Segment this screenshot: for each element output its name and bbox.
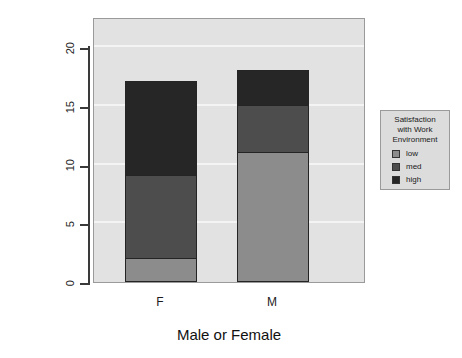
legend: Satisfactionwith WorkEnvironment lowmedh… <box>380 110 450 190</box>
legend-item-high[interactable]: high <box>392 174 446 186</box>
legend-item-med[interactable]: med <box>392 161 446 173</box>
legend-label-low: low <box>406 149 418 159</box>
legend-items: lowmedhigh <box>384 148 446 186</box>
x-axis-title: Male or Female <box>93 326 365 343</box>
legend-label-med: med <box>406 162 422 172</box>
legend-label-high: high <box>406 175 421 185</box>
y-axis-tick <box>80 283 88 285</box>
bar-segment-f-low[interactable] <box>125 258 197 283</box>
legend-swatch-high <box>392 176 400 184</box>
y-axis-tick <box>80 166 88 168</box>
legend-swatch-med <box>392 163 400 171</box>
bar-segment-m-low[interactable] <box>237 152 309 282</box>
legend-item-low[interactable]: low <box>392 148 446 160</box>
bar-segment-m-med[interactable] <box>237 105 309 153</box>
legend-swatch-low <box>392 150 400 158</box>
x-axis-tick-label-f: F <box>140 295 180 309</box>
y-axis-tick-label: 20 <box>64 42 76 54</box>
legend-title: Satisfactionwith WorkEnvironment <box>384 115 446 145</box>
y-axis-tick-label: 5 <box>64 221 76 227</box>
y-axis-tick-label: 0 <box>64 280 76 286</box>
bar-segment-f-med[interactable] <box>125 175 197 258</box>
legend-title-line-3: Environment <box>384 135 446 145</box>
bar-segment-m-high[interactable] <box>237 70 309 106</box>
stacked-bar-chart: 05101520 Frequency FM Male or Female Sat… <box>0 0 462 358</box>
y-axis-line <box>88 46 90 285</box>
y-axis-tick <box>80 48 88 50</box>
x-axis-tick-label-m: M <box>252 295 292 309</box>
y-axis-tick-label: 15 <box>64 101 76 113</box>
y-axis-tick <box>80 107 88 109</box>
plot-panel <box>93 18 365 283</box>
legend-title-line-1: Satisfaction <box>384 115 446 125</box>
bar-group-m[interactable] <box>237 17 309 282</box>
bar-segment-f-high[interactable] <box>125 81 197 176</box>
y-axis-title: Frequency <box>0 128 72 199</box>
legend-title-line-2: with Work <box>384 125 446 135</box>
bar-group-f[interactable] <box>125 17 197 282</box>
y-axis-tick <box>80 224 88 226</box>
